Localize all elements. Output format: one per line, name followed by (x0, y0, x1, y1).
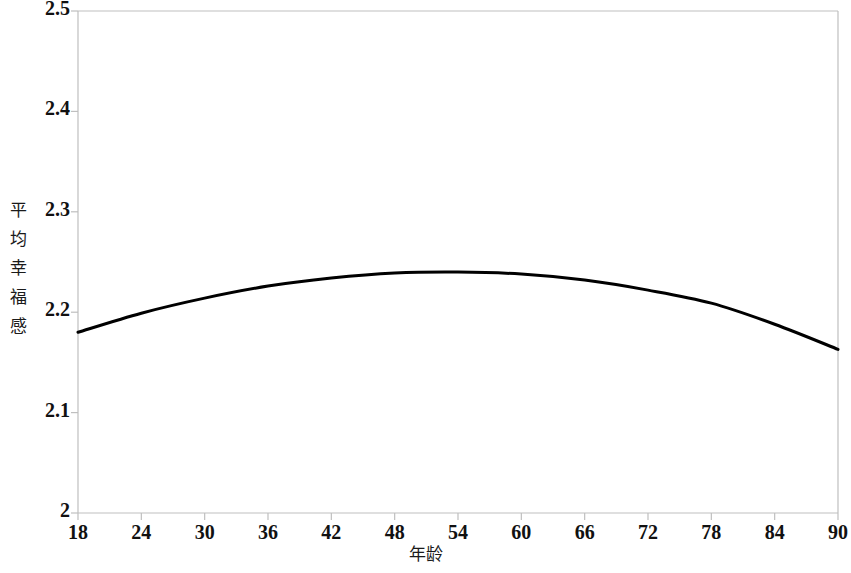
x-axis-tick-label: 30 (175, 521, 235, 544)
plot-area (0, 0, 851, 573)
x-axis-tick-label: 42 (301, 521, 361, 544)
chart-container: 平均幸福感 年龄 22.12.22.32.42.5 18243036424854… (0, 0, 851, 573)
x-axis-tick-label: 66 (555, 521, 615, 544)
x-axis-tick-label: 84 (745, 521, 805, 544)
x-axis-tick-label: 36 (238, 521, 298, 544)
axis-ticks (71, 11, 838, 520)
x-axis-tick-label: 48 (365, 521, 425, 544)
x-axis-tick-label: 54 (428, 521, 488, 544)
x-axis-tick-label: 24 (111, 521, 171, 544)
x-axis-tick-label: 78 (681, 521, 741, 544)
x-axis-tick-label: 90 (808, 521, 851, 544)
x-axis-tick-label: 72 (618, 521, 678, 544)
x-axis-tick-label: 18 (48, 521, 108, 544)
happiness-curve (78, 272, 838, 349)
axis-frame (78, 11, 838, 513)
x-axis-tick-label: 60 (491, 521, 551, 544)
